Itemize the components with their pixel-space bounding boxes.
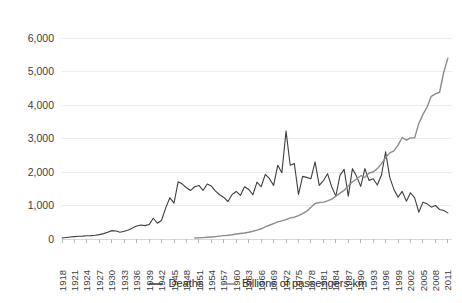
x-tick-label: 1960: [231, 270, 242, 291]
y-tick-label: 1,000: [28, 199, 54, 211]
x-tick-label: 1954: [206, 270, 217, 291]
x-tick-label: 1924: [81, 270, 92, 291]
x-tick-label: 2011: [442, 270, 453, 290]
x-tick-label: 1993: [368, 270, 379, 291]
y-tick-label: 4,000: [28, 99, 54, 111]
x-tick-label: 1933: [119, 270, 130, 291]
y-tick-label: 0: [48, 233, 54, 245]
x-tick-label: 2005: [418, 270, 429, 291]
y-tick-label: 6,000: [28, 32, 54, 44]
x-tick-label: 2002: [405, 270, 416, 291]
series-line-2: [195, 58, 448, 238]
data-series: [62, 58, 448, 238]
x-tick-label: 1936: [131, 270, 142, 291]
y-axis-tick-labels: 01,0002,0003,0004,0005,0006,000: [28, 32, 54, 245]
x-tick-label: 1921: [69, 270, 80, 291]
series-line-1: [62, 131, 448, 238]
chart-legend: DeathsBillions of passengers-km: [149, 277, 368, 289]
x-tick-label: 2008: [430, 270, 441, 291]
x-tick-label: 1930: [106, 270, 117, 291]
y-tick-label: 2,000: [28, 166, 54, 178]
x-tick-label: 1927: [94, 270, 105, 291]
x-tick-label: 1942: [156, 270, 167, 291]
x-tick-label: 1996: [380, 270, 391, 291]
x-tick-label: 1918: [57, 270, 68, 291]
legend-item[interactable]: Billions of passengers-km: [222, 277, 367, 289]
x-tick-label: 1957: [218, 270, 229, 291]
x-tick-label: 1939: [144, 270, 155, 291]
gridlines: [62, 38, 452, 239]
y-tick-label: 3,000: [28, 132, 54, 144]
chart-container: 01,0002,0003,0004,0005,0006,000 19181921…: [0, 0, 462, 303]
line-chart: 01,0002,0003,0004,0005,0006,000 19181921…: [0, 0, 462, 303]
legend-label: Billions of passengers-km: [242, 277, 367, 289]
legend-label: Deaths: [169, 277, 204, 289]
y-tick-label: 5,000: [28, 65, 54, 77]
x-tick-label: 1999: [393, 270, 404, 291]
